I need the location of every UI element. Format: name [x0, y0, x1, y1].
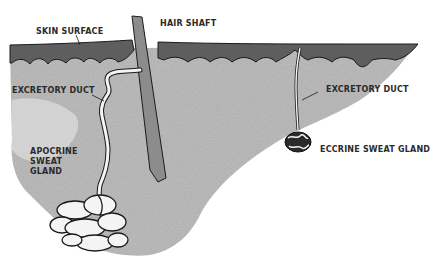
skin-diagram: SKIN SURFACE HAIR SHAFT EXCRETORY DUCT E… [0, 0, 442, 267]
apocrine-label-line2: SWEAT [30, 157, 62, 167]
excretory-duct-left-label: EXCRETORY DUCT [12, 86, 95, 96]
apocrine-label-line1: APOCRINE [30, 147, 78, 157]
eccrine-gland [285, 132, 311, 152]
skin-surface-label: SKIN SURFACE [36, 27, 103, 37]
apocrine-label-line3: GLAND [30, 167, 62, 177]
excretory-duct-right-label: EXCRETORY DUCT [326, 85, 409, 95]
apocrine-gland [50, 195, 128, 251]
diagram-illustration [0, 0, 442, 267]
hair-shaft-label: HAIR SHAFT [160, 19, 216, 29]
eccrine-label: ECCRINE SWEAT GLAND [320, 145, 430, 155]
